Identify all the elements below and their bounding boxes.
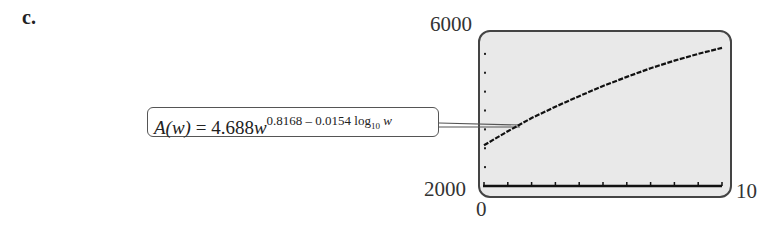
equation-callout: A(w) = 4.688w0.8168 – 0.0154 log10 w	[147, 107, 439, 137]
equation-base: w	[254, 117, 267, 138]
y-ticks	[484, 53, 486, 168]
equation-lhs: A(w)	[154, 117, 191, 138]
equation-coefficient: = 4.688	[191, 117, 254, 138]
callout-leader	[439, 123, 520, 125]
equation-exponent: 0.8168 – 0.0154 log10 w	[267, 113, 392, 128]
function-curve	[484, 48, 722, 145]
